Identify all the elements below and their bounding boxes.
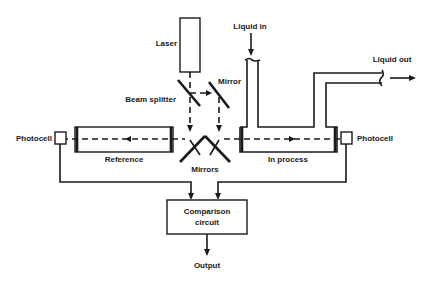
arrow-down-icon xyxy=(187,125,193,132)
laser-box xyxy=(180,18,200,72)
comparison-label-2: circuit xyxy=(195,218,219,227)
process-cell-top xyxy=(258,60,382,127)
arrow-down-icon xyxy=(216,125,222,132)
output-label: Output xyxy=(194,261,221,270)
arrow-right-icon xyxy=(206,90,212,96)
arrow-down-icon xyxy=(188,193,194,200)
liquid-in-label: Liquid in xyxy=(233,22,266,31)
photocell-left xyxy=(55,132,66,144)
mirror-label: Mirror xyxy=(218,77,241,86)
arrow-right-icon xyxy=(409,75,416,81)
comparison-label-1: Comparison xyxy=(184,207,231,216)
laser-label: Laser xyxy=(156,39,177,48)
arrow-down-icon xyxy=(215,193,221,200)
beam-splitter-label: Beam splitter xyxy=(125,95,176,104)
mirrors-label: Mirrors xyxy=(191,165,219,174)
photocell-right xyxy=(341,132,352,144)
arrow-down-icon xyxy=(248,49,254,56)
liquid-out-label: Liquid out xyxy=(373,55,412,64)
photocell-right-label: Photocell xyxy=(357,134,393,143)
beam-splitter xyxy=(178,80,200,106)
inlet-pipe-left xyxy=(240,60,247,127)
mirrors-right xyxy=(205,136,230,162)
reference-label: Reference xyxy=(105,155,144,164)
in-process-label: In process xyxy=(268,155,309,164)
photocell-left-label: Photocell xyxy=(16,134,52,143)
arrow-right-icon xyxy=(289,136,295,142)
mirrors-left xyxy=(180,136,205,162)
diagram-canvas: Laser Beam splitter Mirror Mirrors Refer… xyxy=(0,0,433,283)
comparison-circuit xyxy=(167,200,247,234)
arrow-down-icon xyxy=(204,249,210,256)
